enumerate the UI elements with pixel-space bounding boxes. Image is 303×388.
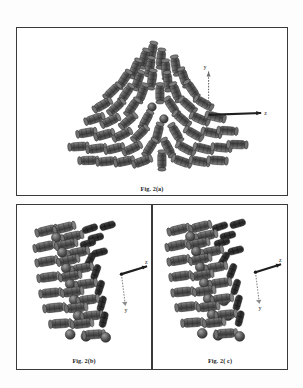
- axis-triad-panel-a: [207, 71, 262, 115]
- axis-label-z-a: z: [264, 110, 267, 116]
- panel-a-molecule-diagram: z y: [17, 28, 287, 195]
- caption-panel-a: Fig. 2(a): [17, 185, 287, 192]
- figure-panel-b: z y Fig. 2(b): [16, 204, 152, 370]
- caption-panel-b: Fig. 2(b): [17, 357, 151, 364]
- figure-page: z y Fig. 2(a): [0, 0, 303, 388]
- axis-label-y-c: y: [258, 305, 261, 311]
- caption-panel-c: Fig. 2( c): [153, 357, 287, 364]
- axis-label-z-b: z: [145, 259, 148, 265]
- panel-c-molecule-diagram: z y: [153, 205, 287, 369]
- figure-panel-a: z y Fig. 2(a): [16, 27, 288, 196]
- figure-panel-c: z y Fig. 2( c): [152, 204, 288, 370]
- axis-label-z-c: z: [279, 257, 282, 263]
- axis-triad-panel-b: [120, 266, 147, 306]
- panel-b-molecule-diagram: z y: [17, 205, 151, 369]
- axis-triad-panel-c: [254, 264, 281, 304]
- axis-label-y-b: y: [124, 307, 127, 313]
- axis-label-y-a: y: [204, 64, 207, 70]
